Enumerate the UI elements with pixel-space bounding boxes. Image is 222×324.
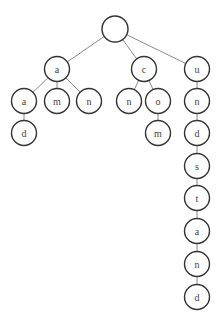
node-label: c [142,64,147,75]
root-node [102,16,128,42]
node-label: a [55,64,60,75]
node-label: t [196,193,199,204]
trie-node: a [45,57,70,82]
trie-node: m [45,89,70,114]
trie-node: n [185,252,210,277]
node-label: s [195,161,199,172]
trie-node: o [146,89,171,114]
node-label: d [22,128,27,139]
node-label: n [195,96,200,107]
trie-node: s [185,154,210,179]
node-label: u [195,64,200,75]
trie-node: n [77,89,102,114]
node-label: a [22,96,27,107]
trie-node: d [185,285,210,310]
trie-node: c [132,57,157,82]
node-circle [102,16,128,42]
trie-node: n [185,89,210,114]
node-label: d [195,128,200,139]
node-label: o [156,96,161,107]
nodes-layer: acuamnnondmdstand [12,16,210,310]
node-label: m [53,96,61,107]
node-label: a [195,226,200,237]
trie-node: m [146,121,171,146]
trie-node: t [185,186,210,211]
trie-node: n [117,89,142,114]
trie-node: a [12,89,37,114]
node-label: n [87,96,92,107]
trie-diagram: acuamnnondmdstand [0,0,222,324]
trie-node: d [185,121,210,146]
trie-node: d [12,121,37,146]
trie-node: a [185,219,210,244]
node-label: n [195,259,200,270]
trie-node: u [185,57,210,82]
node-label: n [127,96,132,107]
node-label: m [154,128,162,139]
node-label: d [195,292,200,303]
